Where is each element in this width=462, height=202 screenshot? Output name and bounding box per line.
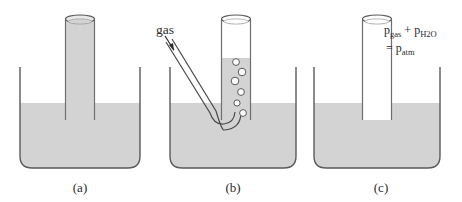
p-atm-symbol: p: [396, 41, 402, 55]
panel-b: gas (b): [148, 0, 318, 202]
pressure-equation-line-1: pgas + pH2O: [384, 22, 437, 40]
pressure-equation: pgas + pH2O = patm: [384, 22, 437, 58]
equals-operator: =: [386, 41, 396, 55]
tube-inner-rim-a: [68, 19, 92, 24]
gas-collection-figure: (a): [0, 0, 462, 202]
panel-c-diagram: [300, 0, 462, 202]
tube-water-a: [66, 20, 95, 120]
gas-label: gas: [156, 22, 174, 38]
p-gas-subscript: gas: [390, 29, 401, 39]
p-atm-subscript: atm: [402, 47, 415, 57]
p-water-subscript: H2O: [420, 29, 437, 39]
panel-a-diagram: [0, 0, 160, 202]
tube-gas-b: [222, 20, 251, 58]
o-letter: O: [431, 29, 437, 39]
panel-label-b: (b): [148, 180, 318, 196]
panel-label-c: (c): [300, 180, 462, 196]
pressure-equation-line-2: = patm: [384, 40, 437, 58]
panel-label-a: (a): [0, 180, 160, 196]
tube-water-b: [222, 58, 251, 120]
panel-c: pgas + pH2O = patm (c): [300, 0, 462, 202]
tube-inner-rim-b: [224, 19, 248, 24]
panel-a: (a): [0, 0, 160, 202]
plus-operator: +: [401, 23, 414, 37]
